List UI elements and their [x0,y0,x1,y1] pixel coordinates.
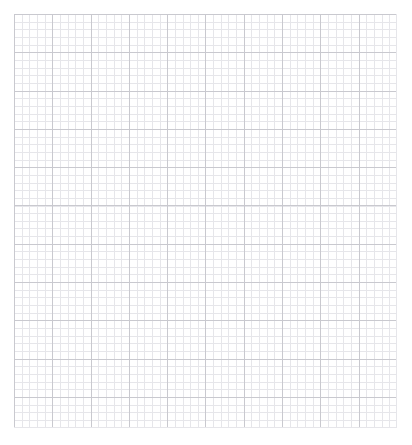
page-canvas [0,0,412,445]
graph-paper-grid [14,14,397,428]
